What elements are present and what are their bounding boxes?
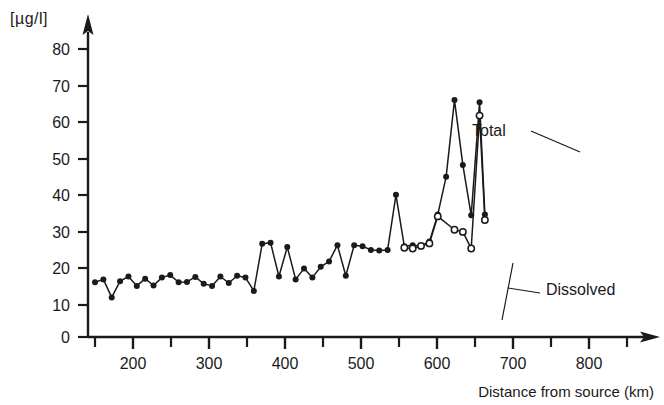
data-point bbox=[334, 242, 340, 248]
data-point bbox=[301, 266, 307, 272]
leader-line-dissolved-a bbox=[502, 263, 513, 320]
data-point bbox=[184, 279, 190, 285]
y-tick-label-0: 0 bbox=[61, 329, 70, 346]
annotation-dissolved: Dissolved bbox=[502, 263, 615, 320]
data-point bbox=[209, 283, 215, 289]
data-point bbox=[451, 227, 457, 233]
data-point bbox=[226, 280, 232, 286]
series-label-total: Total bbox=[472, 122, 506, 139]
data-point bbox=[343, 273, 349, 279]
x-axis-ticks bbox=[95, 337, 627, 349]
y-tick-label-30: 30 bbox=[52, 224, 70, 241]
concentration-vs-distance-chart: 0 10 20 30 40 50 60 70 80 [µg/l] 200 300… bbox=[0, 0, 664, 405]
y-axis-ticks bbox=[78, 49, 88, 337]
data-point bbox=[351, 242, 357, 248]
data-point bbox=[251, 288, 257, 294]
data-point bbox=[167, 272, 173, 278]
data-point bbox=[242, 275, 248, 281]
data-series-layer bbox=[92, 97, 488, 300]
data-point bbox=[443, 174, 449, 180]
y-tick-label-20: 20 bbox=[52, 260, 70, 277]
data-point bbox=[92, 279, 98, 285]
data-point bbox=[159, 275, 165, 281]
data-point bbox=[234, 273, 240, 279]
x-tick-label-500: 500 bbox=[348, 355, 375, 372]
data-point bbox=[318, 264, 324, 270]
data-point bbox=[460, 162, 466, 168]
data-point bbox=[385, 247, 391, 253]
data-point bbox=[326, 258, 332, 264]
data-point bbox=[360, 243, 366, 249]
data-point bbox=[276, 274, 282, 280]
y-axis-unit-label: [µg/l] bbox=[10, 10, 48, 27]
y-tick-label-50: 50 bbox=[52, 151, 70, 168]
data-point bbox=[192, 274, 198, 280]
data-point bbox=[284, 244, 290, 250]
x-tick-label-300: 300 bbox=[196, 355, 223, 372]
data-point bbox=[468, 245, 474, 251]
data-point bbox=[451, 97, 457, 103]
leader-line-dissolved-b bbox=[508, 288, 540, 293]
data-point bbox=[268, 240, 274, 246]
data-point bbox=[460, 229, 466, 235]
y-tick-label-40: 40 bbox=[52, 187, 70, 204]
data-point bbox=[376, 248, 382, 254]
y-tick-label-10: 10 bbox=[52, 297, 70, 314]
y-tick-label-70: 70 bbox=[52, 78, 70, 95]
data-point bbox=[134, 283, 140, 289]
data-point bbox=[418, 243, 424, 249]
data-point bbox=[477, 99, 483, 105]
data-point bbox=[100, 276, 106, 282]
data-point bbox=[217, 274, 223, 280]
data-point bbox=[476, 112, 482, 118]
x-tick-label-800: 800 bbox=[576, 355, 603, 372]
x-tick-label-400: 400 bbox=[272, 355, 299, 372]
data-point bbox=[368, 247, 374, 253]
y-tick-label-80: 80 bbox=[52, 41, 70, 58]
annotation-total: Total bbox=[472, 122, 580, 152]
leader-line-total bbox=[531, 131, 580, 152]
data-point bbox=[151, 283, 157, 289]
data-point bbox=[176, 279, 182, 285]
x-axis-title: Distance from source (km) bbox=[478, 383, 654, 400]
data-point bbox=[142, 276, 148, 282]
data-point bbox=[426, 240, 432, 246]
data-point bbox=[125, 274, 131, 280]
x-tick-label-200: 200 bbox=[120, 355, 147, 372]
data-point bbox=[293, 276, 299, 282]
data-point bbox=[409, 245, 415, 251]
data-point bbox=[482, 217, 488, 223]
x-axis-tick-labels: 200 300 400 500 600 700 800 bbox=[120, 355, 603, 372]
y-axis-tick-labels: 0 10 20 30 40 50 60 70 80 bbox=[52, 41, 70, 346]
data-point bbox=[201, 281, 207, 287]
series-label-dissolved: Dissolved bbox=[546, 281, 615, 298]
series-line-total bbox=[95, 100, 485, 297]
y-axis-arrowhead bbox=[83, 14, 94, 35]
x-tick-label-600: 600 bbox=[424, 355, 451, 372]
data-point bbox=[109, 294, 115, 300]
data-point bbox=[117, 278, 123, 284]
data-point bbox=[435, 213, 441, 219]
data-point bbox=[259, 241, 265, 247]
y-tick-label-60: 60 bbox=[52, 114, 70, 131]
data-point bbox=[401, 245, 407, 251]
data-point bbox=[309, 275, 315, 281]
x-tick-label-700: 700 bbox=[500, 355, 527, 372]
series-total bbox=[92, 97, 488, 300]
data-point bbox=[393, 192, 399, 198]
